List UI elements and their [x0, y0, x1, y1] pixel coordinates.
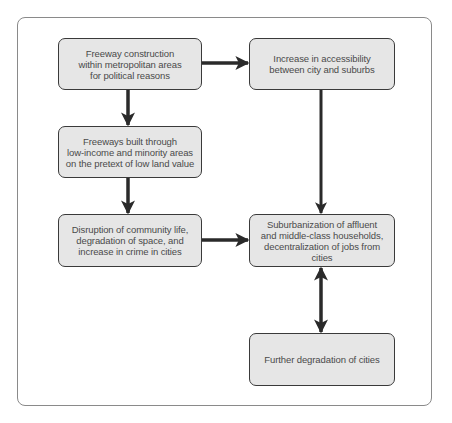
node-freeway-construction: Freeway construction within metropolitan…: [58, 38, 202, 90]
node-label: Freeways built through low-income and mi…: [66, 136, 194, 169]
node-label: Freeway construction within metropolitan…: [78, 48, 181, 81]
node-label: Further degradation of cities: [264, 354, 379, 365]
node-suburbanization: Suburbanization of affluent and middle-c…: [249, 214, 395, 267]
node-disruption-community-life: Disruption of community life, degradatio…: [58, 214, 202, 267]
node-label: Disruption of community life, degradatio…: [72, 224, 188, 257]
node-label: Increase in accessibility between city a…: [269, 53, 374, 75]
node-increase-accessibility: Increase in accessibility between city a…: [249, 38, 395, 90]
node-label: Suburbanization of affluent and middle-c…: [254, 219, 390, 263]
node-further-degradation: Further degradation of cities: [249, 333, 395, 386]
node-freeways-low-income-areas: Freeways built through low-income and mi…: [58, 126, 202, 178]
